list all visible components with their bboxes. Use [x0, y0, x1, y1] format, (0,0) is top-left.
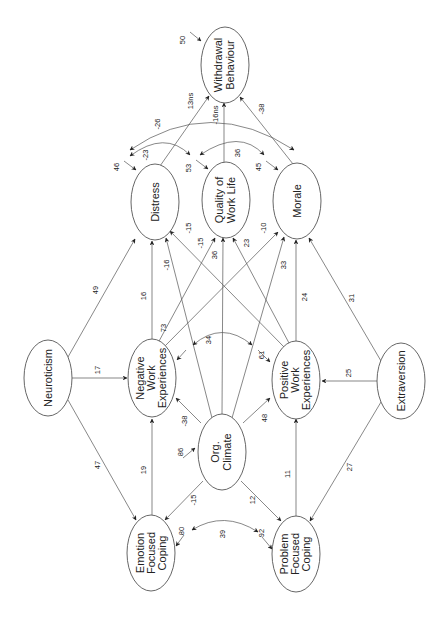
node-morale: Morale [273, 163, 321, 239]
node-problem-focused-coping: Problem Focused Coping [272, 516, 320, 592]
node-positive-work-experiences: Positive Work Experiences [272, 341, 320, 419]
coef-orgclimate-poswork: 48 [260, 414, 269, 422]
cov-qwl-morale [200, 142, 264, 156]
coef-qwl-withdrawal: -16ns [211, 105, 220, 124]
coef-extra-morale: 31 [347, 294, 356, 302]
coef-negwork-poswork-cov: 34 [204, 336, 213, 344]
residual-emotion [176, 535, 184, 546]
path-morale-withdrawal [240, 97, 293, 164]
coef-negwork-morale: -10 [259, 223, 268, 234]
residual-withdrawal [190, 32, 201, 41]
coef-morale-withdrawal: -38 [257, 104, 266, 115]
coef-poswork-qwl: 23 [242, 239, 251, 247]
residual-label-emotion: 80 [177, 527, 186, 535]
residual-negwork [177, 350, 186, 360]
node-label: Climate [221, 433, 233, 470]
residual-label-negwork: 73 [159, 324, 168, 332]
path-negwork-morale [164, 232, 278, 347]
path-distress-withdrawal [160, 96, 209, 166]
node-label: Extraversion [395, 350, 407, 411]
path-orgclimate-qwl [222, 238, 223, 415]
node-emotion-focused-coping: Emotion Focused Coping [127, 515, 175, 591]
coef-orgclimate-morale: 33 [279, 261, 288, 269]
coef-neuro-emotion: 47 [93, 461, 102, 469]
residual-label-orgclimate: 86 [176, 448, 185, 456]
node-label: Experiences [156, 347, 168, 408]
residual-label-problem: 92 [257, 529, 266, 537]
node-org-climate: Org. Climate [198, 414, 246, 490]
node-label: Neuroticism [42, 349, 54, 407]
path-extra-problem [310, 402, 381, 521]
coef-orgclimate-negwork: -38 [180, 416, 189, 427]
path-poswork-qwl [233, 238, 289, 343]
node-label: Coping [156, 536, 168, 571]
residual-distress [124, 161, 136, 170]
node-label: Work Life [225, 177, 237, 223]
residual-problem [262, 537, 272, 549]
residual-label-distress: 46 [112, 163, 121, 171]
node-label: Withdrawal [212, 38, 224, 92]
path-neuro-emotion [68, 400, 136, 520]
coef-qwl-morale-cov: 36 [233, 149, 242, 157]
path-extra-morale [309, 238, 381, 361]
coef-orgclimate-emotion: -15 [189, 495, 198, 506]
node-label: Quality of [213, 176, 225, 223]
coef-negwork-qwl: -15 [196, 238, 205, 249]
node-label: Behaviour [224, 40, 236, 90]
residual-label-poswork: 61 [257, 351, 266, 359]
node-label: Morale [291, 184, 303, 218]
cov-distress-qwl [130, 143, 190, 156]
node-label: Coping [300, 537, 312, 572]
coef-orgclimate-distress: -16 [162, 260, 171, 271]
coef-orgclimate-qwl: 36 [210, 251, 219, 259]
node-label: Distress [149, 182, 161, 222]
coef-distress-withdrawal: 13ns [186, 93, 195, 110]
coef-emotion-negwork: 19 [139, 466, 148, 474]
node-negative-work-experiences: Negative Work Experiences [128, 339, 176, 417]
residual-label-qwl: 53 [184, 164, 193, 172]
coef-neuro-negwork: 17 [93, 366, 102, 374]
coef-extra-poswork: 25 [344, 369, 353, 377]
path-neuro-distress [68, 239, 135, 357]
node-withdrawal: Withdrawal Behaviour [201, 27, 249, 103]
coef-problem-poswork: 11 [283, 470, 292, 478]
node-label: Org. [209, 441, 221, 462]
node-extraversion: Extraversion [377, 343, 425, 419]
coef-orgclimate-problem: 12 [248, 496, 257, 504]
coef-negwork-distress: 16 [139, 292, 148, 300]
residual-qwl [196, 160, 208, 169]
coef-distress-qwl-cov: -23 [141, 150, 150, 161]
node-quality-of-work-life: Quality of Work Life [202, 162, 250, 238]
node-label: Experiences [300, 349, 312, 410]
node-neuroticism: Neuroticism [24, 340, 72, 416]
coef-poswork-morale: 24 [300, 293, 309, 301]
coef-distress-morale-cov: -26 [153, 119, 162, 130]
residual-morale [266, 161, 278, 170]
path-orgclimate-problem [241, 481, 281, 521]
coef-extra-problem: 27 [345, 463, 354, 471]
residual-label-morale: 45 [254, 163, 263, 171]
coef-emotion-problem-cov: 39 [218, 530, 227, 538]
residual-label-withdrawal: 50 [178, 36, 187, 44]
coef-neuro-distress: 49 [91, 286, 100, 294]
coef-poswork-distress: -15 [184, 223, 193, 234]
path-diagram: Withdrawal Behaviour Distress Quality of… [0, 0, 432, 629]
node-distress: Distress [131, 164, 179, 240]
